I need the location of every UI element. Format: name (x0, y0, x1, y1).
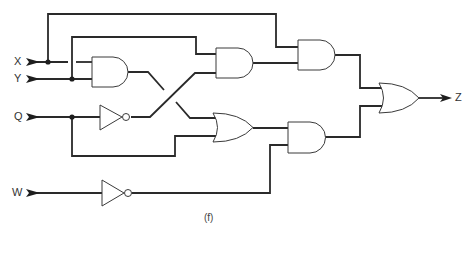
input-label-q: Q (14, 111, 23, 122)
wire-and4-to-or2 (325, 106, 382, 137)
input-label-x: X (14, 56, 21, 67)
and-gate-4 (288, 122, 326, 153)
not-gate-1 (100, 105, 122, 130)
wire-not2-to-and4 (132, 145, 288, 193)
input-label-w: W (12, 187, 22, 198)
wire-and1-to-or1-a (128, 72, 164, 90)
wire-not1-to-and2 (131, 73, 216, 117)
wire-x-to-and3 (48, 14, 298, 62)
arrow-y-icon (26, 75, 40, 83)
and-gate-3 (298, 40, 335, 70)
arrow-q-icon (26, 113, 40, 121)
figure-caption: (f) (204, 212, 213, 223)
and-gate-1 (92, 57, 128, 87)
wire-and1-to-or1-b (176, 102, 216, 118)
not-gate-1-bubble (123, 114, 130, 121)
or-gate-2 (379, 83, 419, 113)
output-label-z: Z (455, 92, 462, 103)
arrow-w-icon (26, 189, 40, 197)
not-gate-2-bubble (125, 190, 132, 197)
input-label-y: Y (14, 73, 21, 84)
junction-q (69, 114, 74, 119)
junction-x (45, 59, 50, 64)
or-gate-1 (213, 113, 253, 142)
logic-circuit (0, 0, 468, 257)
junction-y (69, 76, 74, 81)
wire-q-to-or1 (72, 117, 216, 156)
not-gate-2 (102, 180, 124, 206)
wire-and3-to-or2 (335, 55, 382, 88)
arrow-x-icon (26, 58, 40, 66)
and-gate-2 (216, 48, 253, 78)
